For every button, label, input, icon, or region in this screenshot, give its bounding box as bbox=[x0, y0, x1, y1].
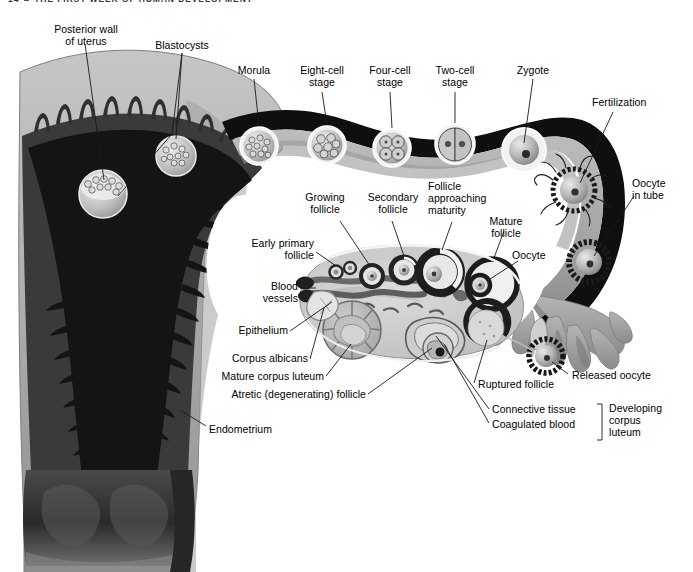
label-early-primary-follicle: Early primary follicle bbox=[218, 238, 314, 262]
label-blood-vessels: Blood vessels bbox=[232, 281, 298, 305]
follicle-approaching-maturity bbox=[419, 251, 461, 293]
figure-page: 14THE FIRST WEEK OF HUMAN DEVELOPMENT bbox=[0, 0, 693, 572]
two-cell-stage-cell bbox=[435, 124, 475, 164]
atretic-follicle bbox=[423, 333, 453, 363]
label-follicle-approaching-maturity: Follicle approaching maturity bbox=[428, 181, 486, 216]
label-atretic-follicle: Atretic (degenerating) follicle bbox=[154, 389, 366, 401]
label-ruptured-follicle: Ruptured follicle bbox=[478, 379, 554, 391]
label-developing-corpus-luteum: Developing corpus luteum bbox=[609, 403, 662, 438]
label-oocyte: Oocyte bbox=[512, 250, 546, 262]
label-morula: Morula bbox=[222, 65, 286, 77]
label-secondary-follicle: Secondary follicle bbox=[359, 192, 427, 216]
label-blastocysts: Blastocysts bbox=[136, 40, 228, 52]
four-cell-stage-cell bbox=[373, 129, 411, 167]
label-epithelium: Epithelium bbox=[204, 325, 288, 337]
label-coagulated-blood: Coagulated blood bbox=[492, 419, 575, 431]
label-mature-follicle: Mature follicle bbox=[479, 216, 533, 240]
label-four-cell-stage: Four-cell stage bbox=[359, 65, 421, 89]
bracket-developing-cl bbox=[597, 404, 602, 440]
morula-cell bbox=[240, 127, 278, 165]
leader-four-cell bbox=[390, 92, 392, 128]
label-mature-corpus-luteum: Mature corpus luteum bbox=[164, 371, 324, 383]
label-released-oocyte: Released oocyte bbox=[572, 370, 651, 382]
label-fertilization: Fertilization bbox=[592, 97, 646, 109]
secondary-follicle bbox=[391, 257, 417, 283]
label-growing-follicle: Growing follicle bbox=[294, 192, 356, 216]
label-connective-tissue: Connective tissue bbox=[492, 404, 576, 416]
eight-cell-stage-cell bbox=[308, 126, 346, 164]
zygote-cell bbox=[502, 128, 546, 172]
label-eight-cell-stage: Eight-cell stage bbox=[291, 65, 353, 89]
label-endometrium: Endometrium bbox=[209, 424, 272, 436]
label-corpus-albicans: Corpus albicans bbox=[184, 353, 308, 365]
oocyte-cumulus bbox=[470, 275, 490, 295]
growing-follicle bbox=[361, 265, 383, 287]
label-oocyte-in-tube: Oocyte in tube bbox=[632, 178, 666, 202]
label-two-cell-stage: Two-cell stage bbox=[424, 65, 486, 89]
label-posterior-wall-of-uterus: Posterior wall of uterus bbox=[31, 24, 141, 48]
label-zygote: Zygote bbox=[503, 65, 563, 77]
blastocyst-free bbox=[156, 136, 196, 176]
